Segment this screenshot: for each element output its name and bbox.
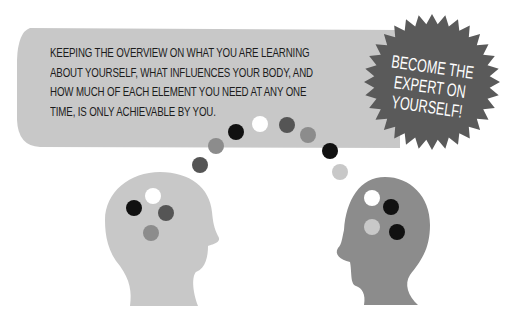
left-head-dot <box>143 225 159 241</box>
bubble-line: TIME, IS ONLY ACHIEVABLE BY YOU. <box>50 102 352 122</box>
right-head-dot <box>364 190 380 206</box>
right-head-dot <box>364 219 380 235</box>
left-head-dot <box>126 200 142 216</box>
thought-dot <box>322 143 338 159</box>
left-head-dot <box>145 188 161 204</box>
thought-dot <box>332 164 348 180</box>
right-head-dot <box>383 199 399 215</box>
thought-dot <box>300 127 316 143</box>
thought-dot <box>192 157 208 173</box>
bubble-line: HOW MUCH OF EACH ELEMENT YOU NEED AT ANY… <box>50 82 352 102</box>
thought-dot <box>208 138 224 154</box>
bubble-line: KEEPING THE OVERVIEW ON WHAT YOU ARE LEA… <box>50 43 352 63</box>
left-head-silhouette <box>105 172 219 306</box>
right-head-dot <box>389 224 405 240</box>
bubble-line: ABOUT YOURSELF, WHAT INFLUENCES YOUR BOD… <box>50 63 352 83</box>
left-head-dot <box>158 205 174 221</box>
thought-dot <box>228 124 244 140</box>
right-head-silhouette <box>337 177 430 305</box>
speech-bubble-text: KEEPING THE OVERVIEW ON WHAT YOU ARE LEA… <box>50 43 259 121</box>
